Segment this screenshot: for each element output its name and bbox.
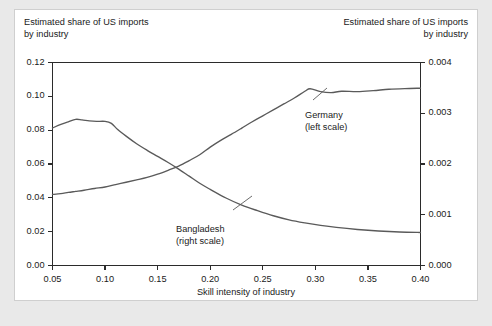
y-tick-label-right: 0.002 xyxy=(429,158,452,168)
x-tick-label: 0.30 xyxy=(285,274,345,284)
series-annotation-bangladesh: Bangladesh (right scale) xyxy=(176,224,225,247)
series-line-bangladesh xyxy=(53,119,421,232)
y-tick-label-left: 0.00 xyxy=(0,260,45,270)
y-tick-label-left: 0.06 xyxy=(0,158,45,168)
x-tick-label: 0.25 xyxy=(233,274,293,284)
x-tick-label: 0.10 xyxy=(75,274,135,284)
y-tick-label-right: 0.001 xyxy=(429,209,452,219)
y-tick-label-left: 0.12 xyxy=(0,57,45,67)
series-annotation-germany: Germany (left scale) xyxy=(305,110,347,133)
y-tick-label-left: 0.02 xyxy=(0,226,45,236)
x-tick-label: 0.20 xyxy=(180,274,240,284)
x-tick-label: 0.05 xyxy=(23,274,83,284)
axes-group xyxy=(48,63,425,271)
y-tick-label-left: 0.08 xyxy=(0,124,45,134)
y-tick-label-left: 0.04 xyxy=(0,192,45,202)
x-tick-label: 0.15 xyxy=(128,274,188,284)
y-tick-label-right: 0.000 xyxy=(429,260,452,270)
y-tick-label-right: 0.003 xyxy=(429,107,452,117)
series-line-germany xyxy=(53,88,421,194)
series-group xyxy=(53,88,421,232)
y-tick-label-left: 0.10 xyxy=(0,90,45,100)
y-tick-label-right: 0.004 xyxy=(429,57,452,67)
x-tick-label: 0.40 xyxy=(391,274,451,284)
x-tick-label: 0.35 xyxy=(338,274,398,284)
